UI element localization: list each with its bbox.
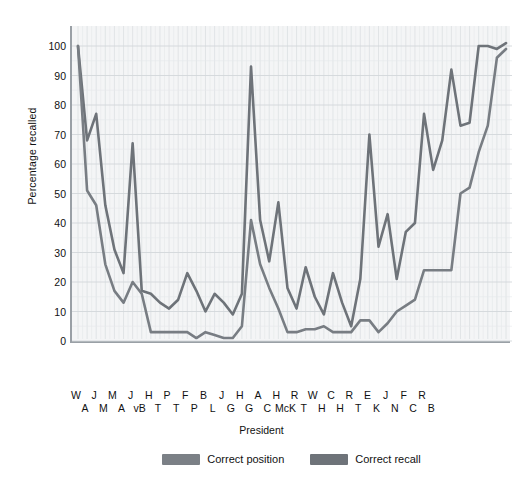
legend-item: Correct position <box>162 453 284 465</box>
y-tick-label: 60 <box>40 158 66 170</box>
y-tick-label: 50 <box>40 188 66 200</box>
legend-label: Correct position <box>207 453 284 465</box>
x-axis-title: President <box>0 424 523 436</box>
y-tick-label: 100 <box>40 40 66 52</box>
y-tick-label: 10 <box>40 306 66 318</box>
legend-swatch <box>310 454 348 465</box>
plot-area <box>70 26 510 343</box>
y-tick-label: 70 <box>40 129 66 141</box>
y-tick-label: 0 <box>40 335 66 347</box>
legend-item: Correct recall <box>310 453 420 465</box>
legend-label: Correct recall <box>355 453 420 465</box>
x-tick-label: B <box>420 402 442 414</box>
y-tick-label: 80 <box>40 99 66 111</box>
x-axis-tick-labels: WAJMMAJvBHTPTFPBLJGHGACHMcKRTWHCHRTEKJNF… <box>70 389 510 419</box>
y-tick-label: 30 <box>40 247 66 259</box>
y-axis-tick-labels: 0102030405060708090100 <box>36 26 66 343</box>
y-tick-label: 20 <box>40 276 66 288</box>
chart-canvas <box>72 26 512 343</box>
y-tick-label: 90 <box>40 70 66 82</box>
chart-legend: Correct positionCorrect recall <box>0 448 523 470</box>
chart-figure: Percentage recalled 01020304050607080901… <box>0 0 523 482</box>
legend-swatch <box>162 454 200 465</box>
x-tick-label: R <box>411 389 433 401</box>
y-tick-label: 40 <box>40 217 66 229</box>
